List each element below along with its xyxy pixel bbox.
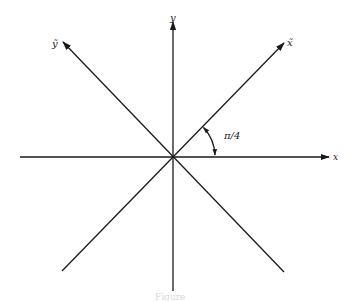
x-tilde-label: x̃ <box>287 37 293 48</box>
figure-caption: Figure <box>155 292 185 301</box>
rotated-axes-diagram: y ỹ x̃ x π/4 Figure <box>0 0 349 301</box>
angle-label: π/4 <box>223 130 240 141</box>
angle-arc <box>204 128 216 156</box>
x-axis-label: x <box>333 152 338 162</box>
y-tilde-label: ỹ <box>51 38 58 49</box>
y-axis-label: y <box>169 12 176 23</box>
